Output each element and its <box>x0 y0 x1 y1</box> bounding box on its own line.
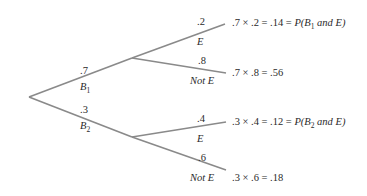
prob-b1: .7 <box>80 65 88 77</box>
result-b1-e-expr: .7 × .2 = .14 = <box>232 17 294 28</box>
branch-b2-not-e <box>132 137 226 170</box>
result-b2-e-tail: and E) <box>314 116 345 127</box>
result-b1-e: .7 × .2 = .14 = P(B1 and E) <box>232 17 345 33</box>
event-b1: B1 <box>80 81 90 97</box>
branch-b1-not-e <box>132 58 226 73</box>
result-b2-e: .3 × .4 = .12 = P(B2 and E) <box>232 116 345 132</box>
event-b1-e: E <box>197 36 203 48</box>
result-b1-e-p: P(B <box>294 17 310 28</box>
result-b1-e-tail: and E) <box>314 17 345 28</box>
event-b2-not-e: Not E <box>190 172 214 184</box>
result-b2-not-e: .3 × .6 = .18 <box>232 172 283 184</box>
prob-b2: .3 <box>80 104 88 116</box>
event-b2: B2 <box>80 120 90 136</box>
prob-b2-not-e: .6 <box>198 152 206 164</box>
prob-b1-not-e: .8 <box>198 55 206 67</box>
branch-b2-e <box>132 122 226 137</box>
prob-b1-e: .2 <box>197 16 205 28</box>
event-b2-subscript: 2 <box>86 125 90 134</box>
event-b1-not-e: Not E <box>190 75 214 87</box>
result-b2-e-expr: .3 × .4 = .12 = <box>232 116 294 127</box>
branch-b1-e <box>132 24 225 58</box>
event-b1-subscript: 1 <box>86 86 90 95</box>
result-b2-e-p: P(B <box>294 116 310 127</box>
result-b1-not-e: .7 × .8 = .56 <box>232 67 283 79</box>
prob-b2-e: .4 <box>197 113 205 125</box>
event-b2-e: E <box>197 133 203 145</box>
